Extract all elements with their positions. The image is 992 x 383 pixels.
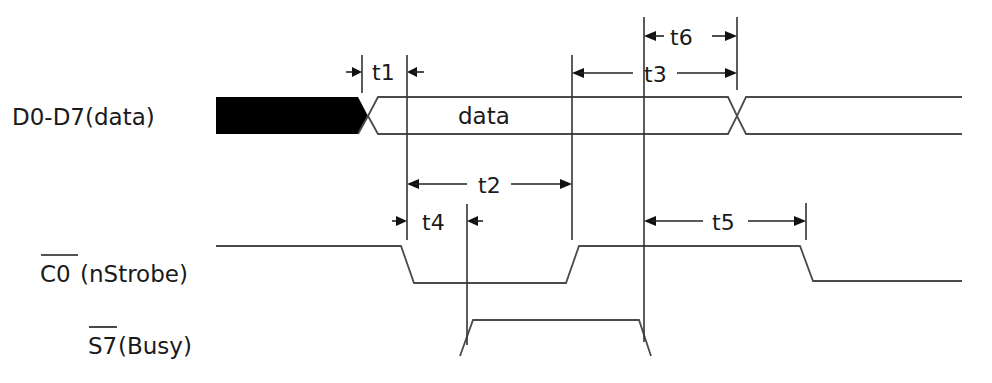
busy-waveform [460, 320, 651, 356]
reference-lines [362, 17, 806, 345]
data-inner-label: data [458, 103, 510, 129]
signal-label-data: D0-D7(data) [12, 104, 155, 130]
data-bus-valid-window [358, 97, 962, 134]
arrow-right-icon [560, 179, 572, 189]
signal-label-nstrobe: C0 (nStrobe) [40, 255, 188, 287]
invalid-data-block [216, 97, 368, 134]
t4-label: t4 [422, 210, 445, 235]
t5-label: t5 [712, 210, 735, 235]
arrow-right-icon [396, 216, 407, 226]
t1-label: t1 [372, 60, 395, 85]
timing-t5: t5 [644, 210, 806, 235]
t3-label: t3 [644, 62, 667, 87]
timing-t2: t2 [407, 173, 572, 198]
data-bus-waveform: data [216, 97, 962, 134]
timing-t3: t3 [572, 62, 737, 87]
arrow-right-icon [794, 216, 806, 226]
timing-t4: t4 [392, 210, 483, 235]
arrow-right-icon [352, 67, 362, 77]
arrow-right-icon [725, 31, 737, 41]
timing-diagram: D0-D7(data) C0 (nStrobe) S7 (Busy) data … [0, 0, 992, 383]
nstrobe-waveform [216, 246, 962, 283]
t2-label: t2 [478, 173, 501, 198]
timing-t1: t1 [346, 60, 424, 85]
signal-label-busy: S7 (Busy) [88, 327, 192, 359]
arrow-right-icon [725, 68, 737, 78]
t6-label: t6 [670, 25, 693, 50]
timing-t6: t6 [644, 25, 737, 50]
busy-signal-name: S7 [88, 333, 117, 359]
nstrobe-signal-suffix: (nStrobe) [80, 261, 188, 287]
data-signal-label: D0-D7(data) [12, 104, 155, 130]
busy-signal-suffix: (Busy) [118, 333, 192, 359]
nstrobe-signal-name: C0 [40, 261, 71, 287]
